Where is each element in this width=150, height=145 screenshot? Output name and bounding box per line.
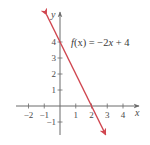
function-suffix: + 4	[113, 37, 130, 48]
x-tick-label: −2	[24, 110, 34, 120]
y-axis-label: y	[50, 9, 56, 20]
y-tick-label: −1	[46, 117, 56, 127]
y-tick-label: 4	[52, 37, 57, 47]
graph-figure: −2−11234 −11234 x y f(x) = −2x + 4	[0, 0, 150, 145]
x-tick-label: 3	[105, 110, 110, 120]
y-tick-label: 3	[52, 53, 57, 63]
function-label: f(x) = −2x + 4	[71, 37, 130, 49]
x-tick-label: 4	[121, 110, 126, 120]
y-tick-label: 1	[52, 85, 57, 95]
coordinate-plane: −2−11234 −11234 x y f(x) = −2x + 4	[0, 0, 150, 145]
x-axis-label: x	[134, 107, 140, 118]
function-mid: (x) = −2	[74, 37, 109, 49]
x-tick-label: 2	[89, 110, 94, 120]
x-tick-label: 1	[74, 110, 79, 120]
y-tick-label: 2	[52, 69, 57, 79]
